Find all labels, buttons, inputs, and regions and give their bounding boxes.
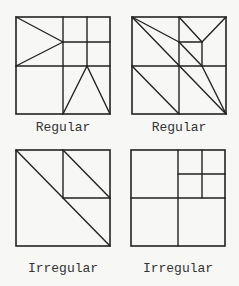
label-bottom-left: Irregular (8, 261, 118, 276)
edge-line (63, 150, 110, 198)
quadtree-figure (0, 0, 239, 286)
label-top-right: Regular (124, 120, 234, 135)
edge-line (87, 66, 110, 114)
edge-line (202, 66, 226, 114)
panel-top-right-regular-diagram (132, 17, 226, 114)
panel-top-left-regular-diagram (16, 17, 110, 114)
label-top-left: Regular (8, 120, 118, 135)
panel-bottom-left-irregular-diagram (16, 150, 110, 246)
edge-line (16, 17, 63, 42)
label-bottom-right: Irregular (123, 261, 233, 276)
edge-line (179, 42, 202, 66)
edge-line (132, 17, 179, 42)
panel-bottom-right-irregular-diagram (131, 150, 225, 246)
edge-line (16, 42, 63, 66)
edge-line (202, 17, 226, 42)
edge-line (132, 66, 179, 114)
edge-line (63, 66, 87, 114)
edge-line (179, 17, 202, 42)
